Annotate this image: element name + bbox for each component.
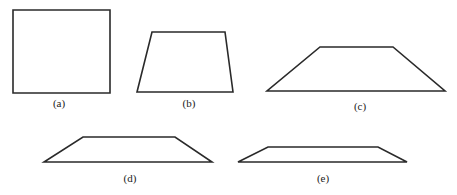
shape-d: (d) [44, 137, 212, 185]
shape-e: (e) [238, 147, 407, 185]
label-c: (c) [354, 100, 367, 113]
shape-sequence-diagram: (a) (b) (c) (d) (e) [0, 0, 457, 195]
shape-c: (c) [267, 47, 445, 113]
shape-a: (a) [13, 10, 110, 110]
trapezoid-outline [267, 47, 445, 91]
label-a: (a) [53, 97, 66, 110]
label-b: (b) [183, 97, 196, 110]
label-d: (d) [124, 172, 137, 185]
shape-b: (b) [137, 32, 233, 110]
square-outline [13, 10, 110, 93]
label-e: (e) [317, 172, 330, 185]
trapezoid-outline [44, 137, 212, 162]
trapezoid-outline [137, 32, 233, 92]
trapezoid-outline [238, 147, 407, 162]
